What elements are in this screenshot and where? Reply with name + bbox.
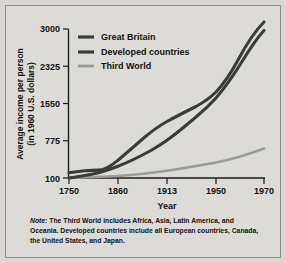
x-axis-title: Year [157,201,177,211]
y-axis-title-line2: (in 1960 U.S. dollars) [26,62,36,146]
y-tick-label-1550: 1550 [40,99,60,109]
x-tick-label-1950: 1950 [206,186,226,196]
note-text: The Third World includes Africa, Asia, L… [30,217,258,244]
x-ticks [69,178,264,184]
series-group [69,22,264,178]
x-tick-label-1860: 1860 [108,186,128,196]
chart-figure: 3000 2325 1550 775 100 1750 1860 1913 19… [0,0,286,263]
y-axis-title-line1: Average income per person [15,48,25,160]
x-tick-label-1970: 1970 [254,186,274,196]
y-ticks [63,29,69,178]
series-line-great-britain [69,22,264,173]
y-tick-label-100: 100 [45,174,60,184]
y-tick-label-775: 775 [45,136,60,146]
legend-label-third-world: Third World [101,61,151,71]
note-label: Note: [30,217,47,224]
x-tick-label-1913: 1913 [157,186,177,196]
chart-note: Note: The Third World includes Africa, A… [30,216,262,246]
legend-label-developed-countries: Developed countries [101,47,190,57]
x-tick-label-1750: 1750 [59,186,79,196]
y-tick-label-2325: 2325 [40,62,60,72]
y-tick-label-3000: 3000 [40,24,60,34]
chart-legend: Great Britain Developed countries Third … [78,32,190,71]
legend-label-great-britain: Great Britain [101,32,156,42]
